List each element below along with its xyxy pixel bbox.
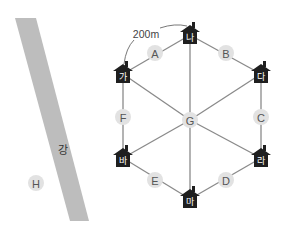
point-D: D: [218, 172, 234, 188]
edge-G-da: [190, 74, 261, 120]
river: [15, 18, 89, 221]
house-roof-icon: [251, 64, 271, 71]
point-label: A: [151, 48, 159, 60]
point-G: G: [182, 112, 198, 128]
point-label: H: [32, 178, 40, 190]
house-da: 다: [251, 61, 271, 83]
point-label: F: [120, 112, 127, 124]
house-ma: 마: [180, 186, 200, 208]
map-diagram: 강 200m ABCDEFGH 나다라마바가: [0, 0, 288, 233]
house-chimney-icon: [263, 145, 266, 151]
point-B: B: [218, 45, 234, 61]
house-ra: 라: [251, 145, 271, 167]
house-label: 바: [119, 156, 128, 166]
point-label: G: [186, 115, 195, 127]
house-roof-icon: [113, 64, 133, 71]
edge-G-ba: [123, 120, 190, 158]
house-chimney-icon: [192, 22, 195, 28]
house-label: 다: [257, 72, 266, 82]
point-F: F: [115, 109, 131, 125]
point-label: E: [151, 175, 158, 187]
house-roof-icon: [113, 148, 133, 155]
house-label: 마: [186, 197, 195, 207]
river-label: 강: [58, 144, 68, 157]
house-ba: 바: [113, 145, 133, 167]
point-A: A: [147, 45, 163, 61]
point-C: C: [253, 109, 269, 125]
point-label: C: [257, 112, 265, 124]
house-roof-icon: [251, 148, 271, 155]
point-label: D: [222, 175, 230, 187]
distance-label: 200m: [133, 28, 160, 40]
point-H: H: [28, 175, 44, 191]
distance-arc-left: [124, 40, 134, 64]
house-label: 가: [119, 72, 127, 82]
house-chimney-icon: [192, 186, 195, 192]
house-chimney-icon: [125, 61, 128, 67]
house-roof-icon: [180, 25, 200, 32]
edge-G-ra: [190, 120, 261, 158]
house-label: 나: [186, 33, 194, 43]
house-roof-icon: [180, 189, 200, 196]
point-label: B: [222, 48, 229, 60]
point-E: E: [147, 172, 163, 188]
house-label: 라: [257, 156, 266, 166]
house-chimney-icon: [263, 61, 266, 67]
distance-arc-right: [160, 25, 187, 28]
house-chimney-icon: [125, 145, 128, 151]
edge-G-ga: [123, 74, 190, 120]
house-ga: 가: [113, 61, 133, 83]
